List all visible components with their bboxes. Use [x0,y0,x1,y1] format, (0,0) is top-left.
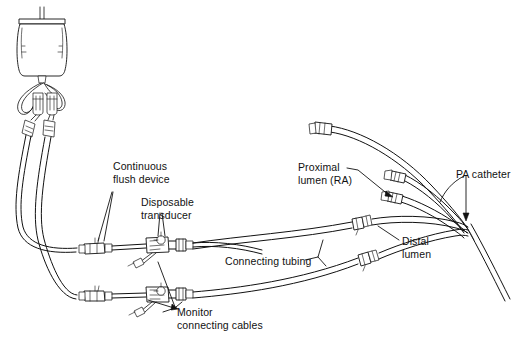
connecting-tubing-upper [193,222,352,249]
inline-luer-connector-proximal [352,215,372,235]
label-pa-catheter: PA catheter [456,168,511,181]
pa-catheter-shaft [466,224,510,301]
inline-luer-connector-distal [358,250,379,271]
roller-clamp-right [43,120,55,137]
label-proximal-lumen: Proximal lumen (RA) [298,161,352,186]
disposable-transducer-upper [128,232,169,268]
monitor-cable-connector-upper [169,239,193,251]
label-continuous-flush-device: Continuous flush device [113,160,170,185]
leader-continuous-flush-device [98,192,113,241]
drip-chamber-left [33,93,43,115]
label-disposable-transducer: Disposable transducer [141,196,194,221]
monitor-cable-connector-lower [169,288,193,300]
pressure-tubing-lower [35,137,77,299]
continuous-flush-device-lower [79,286,112,301]
label-monitor-connecting-cables: Monitor connecting cables [177,306,263,331]
continuous-flush-device-upper [79,238,112,254]
roller-clamp-left [22,120,35,137]
pa-catheter-diagram: Continuous flush device Disposable trans… [0,0,516,339]
pressure-tubing-upper [16,135,77,252]
lumen-limb-distal [381,191,467,238]
leader-distal-lumen [378,226,399,240]
leader-pa-catheter [440,176,469,221]
label-connecting-tubing: Connecting tubing [225,255,311,268]
iv-fluid-bag [17,7,67,83]
drip-chamber-right [47,93,57,115]
label-distal-lumen: Distal lumen [402,235,431,260]
